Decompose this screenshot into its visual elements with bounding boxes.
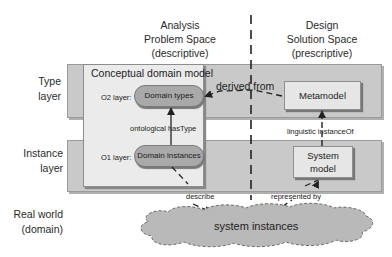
diagram-connectors [0, 0, 392, 257]
system-instances-label: system instances [214, 220, 298, 232]
derived-from-arrow [206, 90, 282, 96]
